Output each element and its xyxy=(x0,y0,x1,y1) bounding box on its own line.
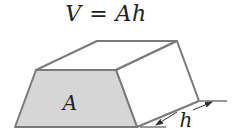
prism-volume-diagram: V = Ah A h xyxy=(0,0,239,137)
prism-drawing: A h xyxy=(0,0,239,137)
base-area-label: A xyxy=(61,91,77,115)
height-label: h xyxy=(180,108,193,132)
